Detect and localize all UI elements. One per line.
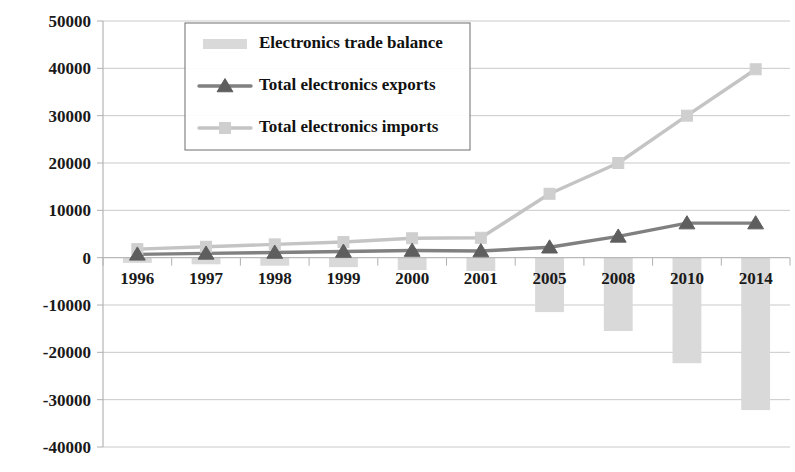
x-tick-label: 2000 [395,269,429,288]
legend-bar-swatch [203,39,247,49]
chart-legend: Electronics trade balanceTotal electroni… [185,23,470,150]
y-tick-label: -20000 [43,343,91,362]
imports-square-marker [750,64,761,75]
trade-balance-bar [260,258,289,266]
y-tick-label: -30000 [43,391,91,410]
x-tick-label: 2005 [533,269,567,288]
imports-square-marker [613,158,624,169]
y-axis-tick-labels: 50000400003000020000100000-10000-20000-3… [43,12,91,457]
x-tick-label: 1997 [189,269,224,288]
y-tick-label: 50000 [49,12,92,31]
imports-square-marker [475,232,486,243]
y-tick-label: -40000 [43,438,91,457]
y-tick-marks-group [97,21,103,447]
imports-square-marker [544,188,555,199]
x-axis-tick-labels: 1996199719981999200020012005200820102014 [120,269,773,288]
x-tick-label: 1998 [258,269,292,288]
x-tick-label: 1999 [326,269,360,288]
legend-label: Electronics trade balance [259,33,443,52]
electronics-trade-chart: 50000400003000020000100000-10000-20000-3… [0,0,795,472]
y-tick-label: 40000 [49,59,92,78]
x-tick-label: 2014 [739,269,774,288]
legend-label: Total electronics exports [259,75,436,94]
legend-square-marker-icon [220,123,231,134]
y-tick-label: 20000 [49,154,92,173]
x-tick-label: 2010 [670,269,704,288]
legend-label: Total electronics imports [259,117,439,136]
x-tick-label: 2008 [601,269,635,288]
y-tick-label: -10000 [43,296,91,315]
y-tick-label: 10000 [49,201,92,220]
imports-square-marker [681,110,692,121]
y-tick-label: 30000 [49,107,92,126]
x-tick-label: 1996 [120,269,154,288]
trade-balance-bar [329,258,358,267]
x-tick-label: 2001 [464,269,498,288]
chart-canvas: 50000400003000020000100000-10000-20000-3… [0,0,795,472]
y-tick-label: 0 [83,249,92,268]
imports-square-marker [407,233,418,244]
